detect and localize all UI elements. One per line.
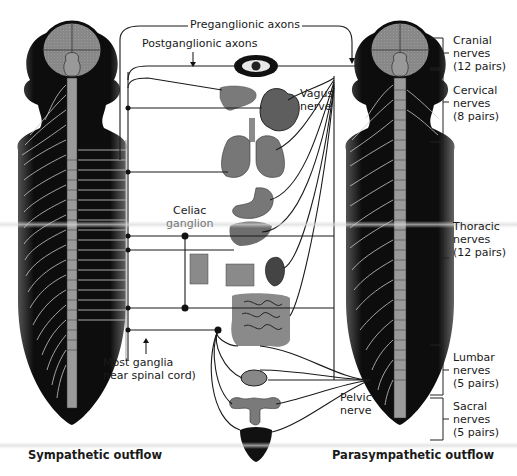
label-sympathetic-outflow: Sympathetic outflow [28,449,162,462]
bladder-icon [241,370,267,386]
label-vagus-nerve: Vagus nerve [300,88,333,113]
scan-band [0,221,517,228]
label-lumbar-nerves: Lumbar nerves (5 pairs) [453,351,499,390]
label-celiac-ganglion: Celiac ganglion [166,205,214,230]
stomach-icon [233,188,274,219]
diagram-canvas [0,0,517,476]
arrow-down-icon [349,58,355,64]
spinal-cord-icon [67,78,77,408]
ans-diagram: Preganglionic axons Postganglionic axons… [0,0,517,476]
reproductive-organs-icon [230,398,281,425]
heart-icon [260,89,299,131]
label-cranial-nerves: Cranial nerves (12 pairs) [453,34,506,73]
label-preganglionic-axons: Preganglionic axons [188,19,302,32]
label-cervical-nerves: Cervical nerves (8 pairs) [453,84,499,123]
label-thoracic-nerves: Thoracic nerves (12 pairs) [453,220,506,259]
label-pelvic-nerve: Pelvic nerve [340,392,372,417]
arrow-up-icon [143,338,149,343]
kidney-icon [265,257,284,286]
spinal-cord-icon [394,78,406,418]
label-most-ganglia: Most ganglia near spinal cord) [103,357,196,382]
salivary-glands-icon [220,86,256,110]
label-postganglionic-axons: Postganglionic axons [142,38,257,51]
intestines-icon [231,293,290,347]
organs [190,55,299,462]
label-parasympathetic-outflow: Parasympathetic outflow [332,449,494,462]
adrenal-tissue-icon [190,254,208,284]
eye-icon [234,55,278,77]
label-sacral-nerves: Sacral nerves (5 pairs) [453,400,499,439]
